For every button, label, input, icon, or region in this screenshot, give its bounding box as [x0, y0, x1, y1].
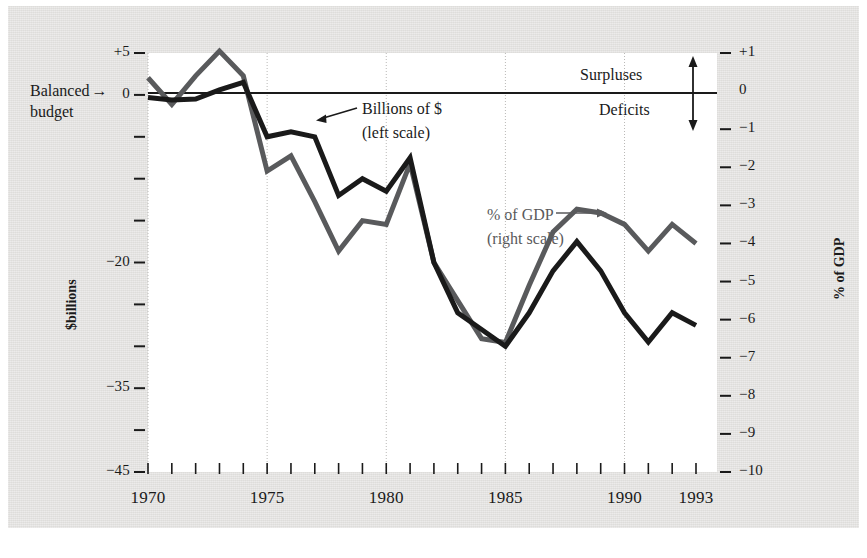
- right-axis-ticks: [720, 53, 731, 472]
- left-tick-label--35: −35: [80, 378, 130, 395]
- x-axis-ticks: [148, 463, 696, 474]
- right-tick-label--10: −10: [739, 462, 779, 479]
- left-tick-label-5: +5: [80, 43, 130, 60]
- x-tick-label-1985: 1985: [465, 488, 545, 508]
- right-tick-label--3: −3: [739, 195, 779, 212]
- right-tick-label--4: −4: [739, 233, 779, 250]
- right-tick-label--5: −5: [739, 272, 779, 289]
- x-tick-label-1970: 1970: [108, 488, 188, 508]
- right-tick-label--6: −6: [739, 310, 779, 327]
- gridlines-group: [148, 53, 625, 472]
- figure-container: Balanced→ budget $billions % of GDP Bill…: [0, 0, 867, 558]
- right-tick-label--8: −8: [739, 386, 779, 403]
- right-tick-label-1: +1: [739, 43, 779, 60]
- right-tick-label-0: 0: [739, 81, 779, 98]
- left-tick-label-0: 0: [80, 85, 130, 102]
- x-tick-label-1975: 1975: [227, 488, 307, 508]
- chart-svg: [0, 0, 867, 558]
- left-axis-ticks: [134, 53, 145, 472]
- x-tick-label-1993: 1993: [656, 488, 736, 508]
- left-tick-label--45: −45: [80, 462, 130, 479]
- left-tick-label--20: −20: [80, 253, 130, 270]
- x-tick-label-1990: 1990: [585, 488, 665, 508]
- black-series-leader-arrow-icon: [316, 108, 357, 123]
- right-tick-label--9: −9: [739, 424, 779, 441]
- series-line-billions: [148, 82, 696, 346]
- right-tick-label--2: −2: [739, 157, 779, 174]
- right-tick-label--1: −1: [739, 119, 779, 136]
- right-tick-label--7: −7: [739, 348, 779, 365]
- x-tick-label-1980: 1980: [346, 488, 426, 508]
